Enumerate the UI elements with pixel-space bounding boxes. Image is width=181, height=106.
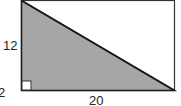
base-label: 20	[89, 94, 103, 106]
height-label: 12	[3, 39, 17, 52]
geometry-figure	[0, 0, 181, 106]
right-angle-marker	[22, 81, 31, 90]
partial-left-label: 2	[0, 86, 5, 99]
